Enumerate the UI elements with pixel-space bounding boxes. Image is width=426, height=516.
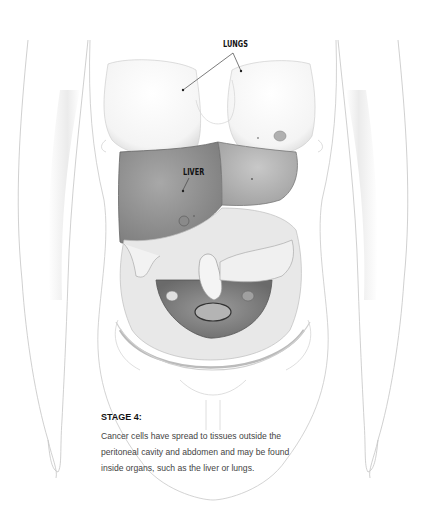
caption-line: peritoneal cavity and abdomen and may be… [101,444,331,460]
caption-title: STAGE 4: [101,412,331,422]
left-arm-shade [48,90,80,300]
liver-label: LIVER [183,168,204,177]
caption-line: inside organs, such as the liver or lung… [101,460,331,476]
lungs-label: LUNGS [223,40,248,49]
stage-caption: STAGE 4: Cancer cells have spread to tis… [101,412,331,476]
lungs-illustration [102,60,323,156]
caption-line: Cancer cells have spread to tissues outs… [101,428,331,444]
caption-body: Cancer cells have spread to tissues outs… [101,428,331,476]
right-arm-shade [346,90,378,300]
